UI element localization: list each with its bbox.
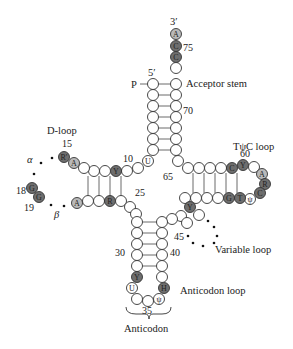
num-18: 18 <box>16 185 26 196</box>
beta-label: β <box>53 209 60 220</box>
nt-a21-label: A <box>74 199 80 208</box>
nt-g19-label: G <box>36 193 42 202</box>
num-15: 15 <box>62 138 72 149</box>
five-prime-label: 5′ <box>148 67 156 78</box>
trna-diagram: A C C U Y A R′ <box>0 0 293 349</box>
nt-a76-label: A <box>173 30 179 39</box>
anticodon-stem-bonds <box>142 222 157 266</box>
anticodon-loop-label: Anticodon loop <box>180 285 246 296</box>
nt-c56-label: C <box>257 189 262 198</box>
anticodon-arm: Y U ψ H <box>126 209 171 320</box>
nt-u33-label: U <box>129 284 135 293</box>
acceptor-stem: A C C U <box>143 29 184 167</box>
nt-u8-label: U <box>145 157 151 166</box>
variable-loop-label: Variable loop <box>215 244 271 255</box>
nt-c75-label: C <box>173 42 178 51</box>
num-30: 30 <box>115 247 125 258</box>
num-75: 75 <box>183 42 193 53</box>
num-65: 65 <box>163 171 173 182</box>
nt-y48-label: Y <box>187 203 193 212</box>
nt-a14-label: A <box>71 159 77 168</box>
d-loop-label: D-loop <box>47 125 77 136</box>
nt-t54-label: T <box>238 194 243 203</box>
nt-psi55-label: ψ <box>247 195 252 204</box>
nt-r15-label: R′ <box>60 153 67 162</box>
nt-y60-label: Y <box>240 161 246 170</box>
phosphate-label: P <box>131 79 137 90</box>
num-40: 40 <box>170 247 180 258</box>
d-stem-bonds <box>88 176 121 196</box>
nt-psi35-label: ψ <box>156 295 161 304</box>
num-19: 19 <box>24 202 34 213</box>
nt-c74-label: C <box>173 53 178 62</box>
three-prime-label: 3′ <box>170 16 178 27</box>
nt-y11-label: Y <box>113 167 119 176</box>
acceptor-stem-label: Acceptor stem <box>186 78 247 89</box>
nt-y32-label: Y <box>134 273 140 282</box>
num-60: 60 <box>240 148 250 159</box>
num-70: 70 <box>183 105 193 116</box>
num-25: 25 <box>135 187 145 198</box>
acceptor-stem-bonds <box>158 84 171 150</box>
anticodon-label: Anticodon <box>124 323 169 334</box>
nt-g53-label: G <box>226 194 232 203</box>
nt-h37-label: H <box>161 284 167 293</box>
alpha-label: α <box>27 154 33 165</box>
num-10: 10 <box>123 153 133 164</box>
nt-c61-label: C <box>229 164 234 173</box>
nt-r57-label: R <box>262 180 268 189</box>
num-35: 35 <box>142 305 152 316</box>
nt-a58-label: A <box>259 170 265 179</box>
t-stem-bonds <box>193 173 237 193</box>
nt-r24-label: R <box>107 197 113 206</box>
nt-g18-label: G <box>29 184 35 193</box>
num-45: 45 <box>174 231 184 242</box>
